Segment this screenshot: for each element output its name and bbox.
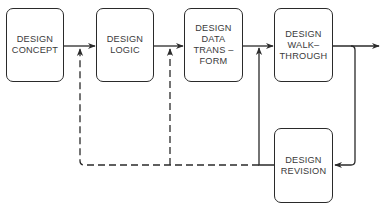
- box-design-concept: DESIGN CONCEPT: [6, 8, 64, 82]
- design-process-diagram: DESIGN CONCEPT DESIGN LOGIC DESIGN DATA …: [0, 0, 383, 206]
- arrow-walkthrough-to-revision: [335, 46, 355, 165]
- box-label: DESIGN REVISION: [281, 155, 327, 177]
- box-design-revision: DESIGN REVISION: [274, 128, 333, 203]
- box-label: DESIGN LOGIC: [107, 34, 143, 56]
- box-label: DESIGN DATA TRANS – FORM: [193, 23, 233, 67]
- arrow-revision-to-walkthrough: [259, 48, 274, 165]
- box-design-walkthrough: DESIGN WALK– THROUGH: [274, 8, 333, 82]
- box-label: DESIGN CONCEPT: [12, 34, 58, 56]
- box-design-data-transform: DESIGN DATA TRANS – FORM: [184, 8, 243, 82]
- box-design-logic: DESIGN LOGIC: [96, 8, 154, 82]
- box-label: DESIGN WALK– THROUGH: [280, 29, 328, 62]
